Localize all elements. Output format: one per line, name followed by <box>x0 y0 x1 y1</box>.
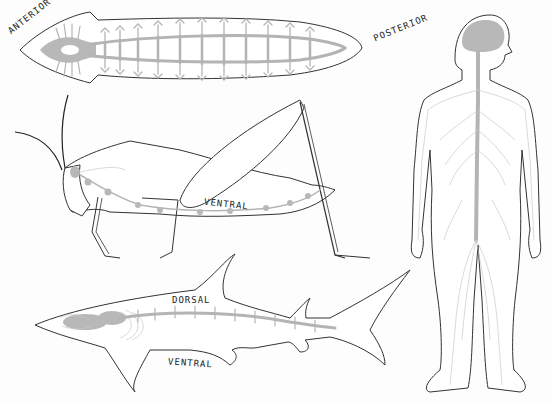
shark <box>35 254 410 392</box>
grasshopper-hind-tibia <box>300 102 345 258</box>
human-spinal-cord <box>476 52 478 240</box>
flatworm <box>20 12 362 83</box>
diagram-canvas: ANTERIOR POSTERIOR VENTRAL DORSAL VENTRA… <box>0 0 551 403</box>
grasshopper-antenna-1 <box>62 95 68 168</box>
diagram-svg <box>0 0 551 403</box>
grasshopper <box>15 95 370 258</box>
shark-dorsal-label: DORSAL <box>172 295 211 305</box>
human <box>411 15 540 392</box>
flatworm-ganglia-center <box>61 45 79 55</box>
grasshopper-hind-tibia-edge <box>304 104 338 252</box>
grasshopper-antenna-2 <box>15 132 62 170</box>
